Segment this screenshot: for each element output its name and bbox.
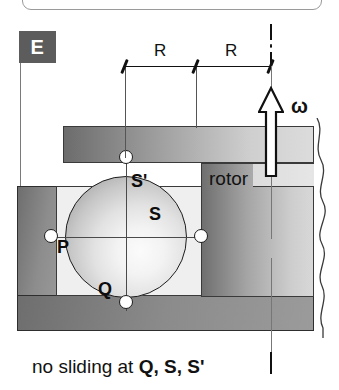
centerline-dot (270, 44, 272, 48)
stator-housing-bottom (17, 295, 314, 331)
extension-line-mid (196, 66, 197, 128)
sphere-horizontal-axis (57, 237, 207, 238)
top-panel-fragment (22, 0, 322, 10)
stator-label-text: E (31, 37, 45, 57)
centerline-dash-top (270, 24, 272, 40)
angular-velocity-arrow-icon (258, 86, 284, 178)
stator-leader-line (20, 63, 21, 187)
point-label-q: Q (98, 280, 112, 298)
point-label-p: P (57, 238, 69, 256)
point-label-s: S (149, 205, 161, 223)
centerline-dash-second (270, 52, 272, 66)
omega-label: ω (291, 96, 308, 116)
stator-label-chip: E (19, 31, 56, 63)
contact-dot-s (194, 229, 208, 243)
contact-dot-q (119, 295, 133, 309)
point-label-s-prime: S' (131, 172, 147, 190)
diagram-canvas: E rotor S' S P Q R R ω no sl (0, 0, 339, 390)
dimension-label-r-left: R (154, 42, 166, 59)
contact-dot-p (44, 229, 58, 243)
rotor-label: rotor (209, 168, 248, 190)
caption: no sliding at Q, S, S' (32, 357, 204, 376)
extension-line-left (125, 66, 126, 158)
contact-dot-s-prime (119, 150, 133, 164)
dimension-line (125, 66, 271, 67)
centerline-lower (271, 258, 272, 361)
caption-points: Q, S, S' (139, 356, 205, 377)
dimension-label-r-right: R (225, 42, 237, 59)
centerline-glyph-i (270, 352, 273, 374)
caption-prefix: no sliding at (32, 356, 139, 377)
